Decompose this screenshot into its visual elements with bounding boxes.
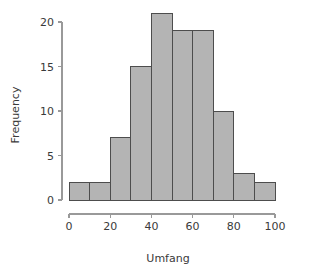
histogram-bar [172,31,193,200]
x-axis-title: Umfang [146,252,189,265]
chart-canvas: 05101520 020406080100 Umfang Frequency [0,0,309,276]
histogram-bar [234,173,255,200]
y-axis-tick-label: 5 [47,150,54,163]
histogram-bar [90,182,111,200]
x-axis-tick-label: 80 [227,220,241,233]
x-axis-tick-label: 100 [265,220,286,233]
histogram-bar [193,31,214,200]
y-axis-title: Frequency [9,86,22,143]
y-axis-tick-label: 10 [40,105,54,118]
histogram-bar [131,67,152,201]
x-axis-tick-label: 0 [66,220,73,233]
y-axis-tick-label: 15 [40,61,54,74]
histogram-bar [254,182,275,200]
histogram-bar [151,13,172,200]
y-axis-tick-label: 0 [47,194,54,207]
histogram-bar [213,111,234,200]
x-axis-tick-label: 20 [103,220,117,233]
histogram-bar [69,182,90,200]
x-axis-tick-label: 40 [144,220,158,233]
x-axis-tick-label: 60 [186,220,200,233]
histogram-bar [110,138,131,200]
y-axis-tick-label: 20 [40,16,54,29]
histogram-chart: 05101520 020406080100 Umfang Frequency [0,0,309,276]
